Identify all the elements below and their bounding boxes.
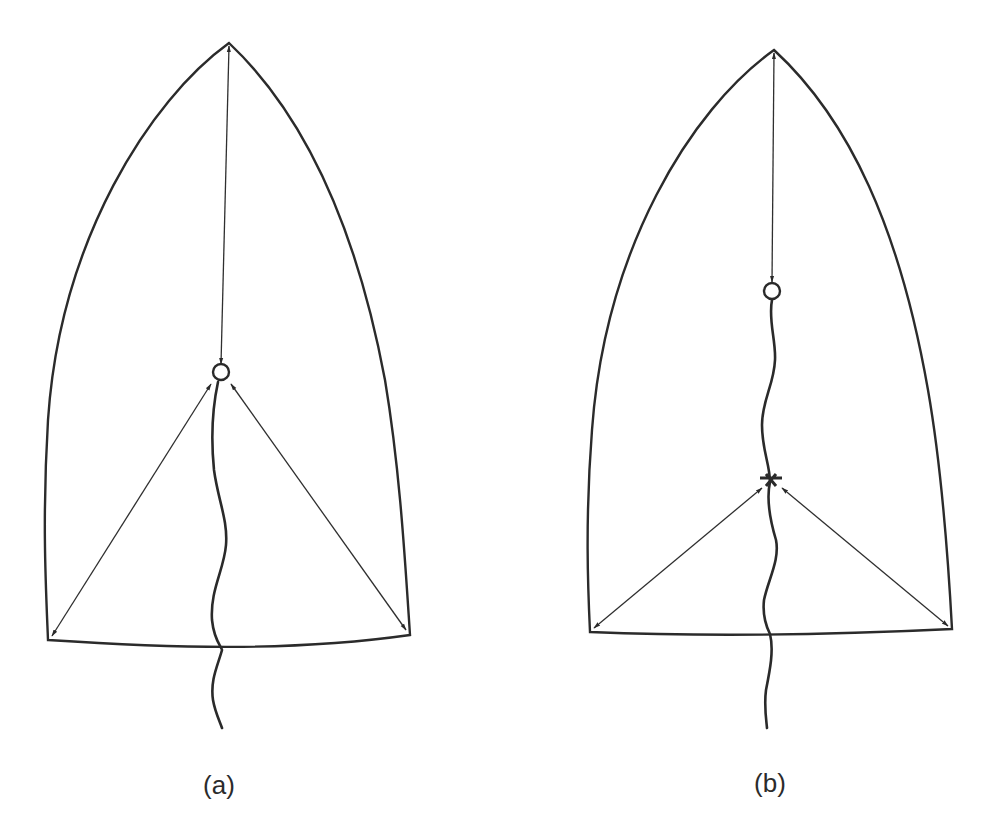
sail-outline-b: [588, 50, 952, 635]
tack-arrow-b: [594, 488, 762, 628]
panel-a: [45, 43, 410, 728]
clew-arrow-a: [231, 384, 406, 630]
diagram-figure: [0, 0, 981, 831]
rope-a: [212, 382, 226, 728]
ring-a: [213, 364, 229, 380]
rope-upper-b: [762, 300, 775, 482]
head-arrow-b: [772, 53, 774, 282]
panel-b: [588, 50, 952, 728]
panel-label-b: (b): [754, 768, 786, 799]
rope-lower-b: [764, 482, 777, 728]
head-arrow-a: [221, 46, 229, 364]
junction-mark-b: [760, 474, 782, 486]
clew-arrow-b: [782, 488, 948, 626]
panel-label-a: (a): [203, 770, 235, 801]
tack-arrow-a: [52, 384, 211, 636]
ring-b: [764, 283, 780, 299]
